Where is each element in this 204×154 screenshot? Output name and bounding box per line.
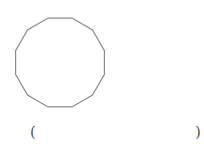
answer-blank-close-paren: ) [195,125,201,140]
answer-blank-open-paren: ( [30,125,36,140]
dodecagon-shape [16,18,105,107]
